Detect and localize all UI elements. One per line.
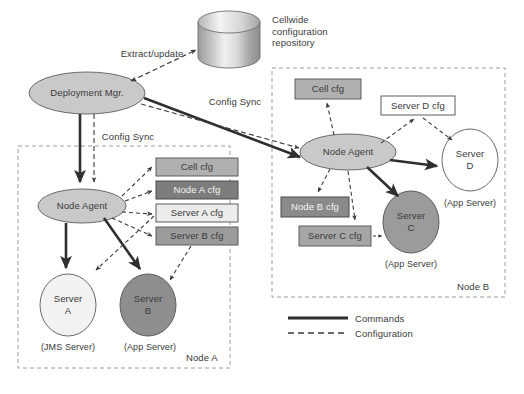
edge-label-extract-update: Extract/update bbox=[121, 48, 184, 60]
region-node-a-label: Node A bbox=[186, 352, 218, 364]
server-d-label-line2: D bbox=[467, 160, 474, 172]
edge-label-config-sync-right: Config Sync bbox=[209, 96, 261, 108]
node-b-cfg-label: Node B cfg bbox=[291, 201, 339, 213]
edge-node-agent-b-to-node-b-cfg bbox=[318, 169, 330, 192]
deployment-manager-label: Deployment Mgr. bbox=[50, 87, 123, 99]
edge-node-agent-a-to-server-b-cfg bbox=[112, 218, 152, 236]
node-agent-a-label: Node Agent bbox=[57, 200, 108, 212]
cellwide-config-repository-label: Cellwide configuration repository bbox=[272, 14, 328, 49]
server-c-cfg-label: Server C cfg bbox=[308, 230, 362, 242]
edge-node-agent-b-to-server-d-cfg bbox=[381, 119, 414, 143]
server-c-label: Server bbox=[397, 210, 426, 222]
edge-node-agent-b-to-server-d-command bbox=[390, 160, 437, 166]
server-b-label: Server bbox=[134, 293, 163, 305]
diagram-canvas: Cellwide configuration repository Deploy… bbox=[0, 0, 524, 394]
server-b-label-line2: B bbox=[145, 305, 151, 317]
edge-node-agent-a-to-cell-cfg bbox=[122, 167, 152, 196]
server-a-cfg-label: Server A cfg bbox=[171, 207, 223, 219]
edge-node-agent-b-to-server-c-command bbox=[367, 167, 398, 196]
region-node-a bbox=[18, 146, 230, 368]
region-node-b-label: Node B bbox=[457, 281, 489, 293]
edge-dm-to-node-agent-b-config bbox=[141, 104, 299, 148]
diagram-vector-layer bbox=[0, 0, 524, 394]
edge-node-agent-a-to-server-a-cfg bbox=[122, 212, 152, 214]
server-b-caption: (App Server) bbox=[124, 342, 176, 354]
server-c-caption: (App Server) bbox=[385, 259, 437, 271]
cell-cfg-a-label: Cell cfg bbox=[181, 161, 213, 173]
server-a-label: Server bbox=[54, 293, 83, 305]
edge-node-agent-b-to-cell-cfg bbox=[327, 103, 334, 135]
server-d-label: Server bbox=[456, 148, 485, 160]
cellwide-config-repository-shape bbox=[198, 11, 260, 68]
server-c-label-line2: C bbox=[408, 222, 415, 234]
legend-configuration-label: Configuration bbox=[355, 328, 413, 340]
edge-label-config-sync-down: Config Sync bbox=[102, 131, 154, 143]
server-d-caption: (App Server) bbox=[444, 198, 496, 210]
node-a-cfg-label: Node A cfg bbox=[174, 184, 221, 196]
edge-node-agent-a-to-node-a-cfg bbox=[125, 191, 152, 201]
server-a-caption: (JMS Server) bbox=[41, 342, 95, 354]
edge-node-agent-a-to-server-b-command bbox=[104, 218, 140, 269]
edge-server-b-cfg-to-server-b bbox=[170, 246, 191, 280]
legend-commands-label: Commands bbox=[355, 313, 404, 325]
edge-server-d-cfg-to-server-d bbox=[423, 118, 452, 140]
server-a-label-line2: A bbox=[65, 305, 71, 317]
node-agent-b-label: Node Agent bbox=[323, 146, 374, 158]
cell-cfg-b-label: Cell cfg bbox=[312, 83, 344, 95]
server-b-cfg-label: Server B cfg bbox=[170, 230, 223, 242]
server-d-cfg-label: Server D cfg bbox=[391, 100, 445, 112]
